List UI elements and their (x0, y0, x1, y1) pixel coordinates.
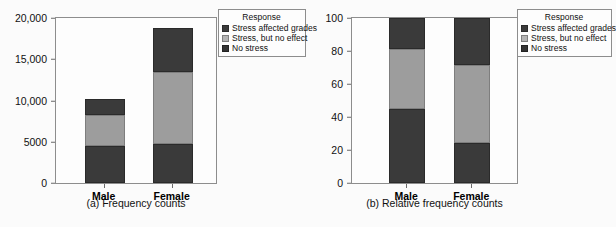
y-tick-label: 100 (308, 13, 351, 24)
bar-segment-stress-affected-grades (85, 99, 125, 116)
legend-swatch-icon (222, 45, 229, 52)
figure-canvas: (a) Frequency counts 0500010,00015,00020… (0, 0, 616, 227)
legend-swatch-icon (222, 35, 229, 42)
bar-segment-stress-but-no-effect (454, 65, 490, 143)
bar-male (389, 18, 425, 183)
legend-title: Response (521, 12, 607, 22)
bar-male (85, 99, 125, 183)
y-tick-label: 20,000 (0, 13, 55, 24)
plot-area-panel-a (55, 17, 217, 184)
legend-swatch-icon (521, 25, 528, 32)
legend-item: No stress (521, 43, 607, 53)
legend-item: Stress, but no effect (521, 33, 607, 43)
bar-female (454, 18, 490, 183)
x-axis-label-female: Female (154, 190, 190, 202)
legend-panel-a: ResponseStress affected gradesStress, bu… (218, 9, 306, 57)
y-tick-label: 40 (308, 112, 351, 123)
plot-area-panel-b (351, 17, 518, 184)
y-tick-label: 10,000 (0, 95, 55, 106)
legend-item-label: No stress (232, 43, 268, 53)
legend-item: Stress affected grades (222, 23, 301, 33)
legend-item-label: Stress, but no effect (232, 33, 307, 43)
x-tick (471, 184, 472, 188)
y-tick-label: 0 (308, 178, 351, 189)
legend-swatch-icon (521, 35, 528, 42)
legend-item-label: Stress affected grades (232, 23, 317, 33)
bar-segment-no-stress (389, 109, 425, 183)
x-tick (104, 184, 105, 188)
y-tick-label: 20 (308, 145, 351, 156)
bar-segment-no-stress (153, 144, 193, 183)
legend-item-label: Stress, but no effect (531, 33, 606, 43)
bar-segment-no-stress (85, 146, 125, 183)
bar-segment-stress-but-no-effect (153, 72, 193, 144)
x-axis-label-male: Male (394, 190, 417, 202)
x-tick (406, 184, 407, 188)
bar-segment-no-stress (454, 143, 490, 183)
y-axis-panel-a (0, 0, 55, 227)
bar-segment-stress-affected-grades (454, 18, 490, 65)
legend-title: Response (222, 12, 301, 22)
bar-segment-stress-affected-grades (153, 28, 193, 73)
y-tick-label: 15,000 (0, 54, 55, 65)
legend-item: Stress, but no effect (222, 33, 301, 43)
legend-swatch-icon (222, 25, 229, 32)
legend-swatch-icon (521, 45, 528, 52)
x-axis-label-female: Female (453, 190, 489, 202)
y-tick-label: 60 (308, 79, 351, 90)
y-tick-label: 0 (0, 178, 55, 189)
bar-segment-stress-affected-grades (389, 18, 425, 49)
bar-female (153, 28, 193, 183)
legend-panel-b: ResponseStress affected gradesStress, bu… (517, 9, 612, 57)
legend-item-label: No stress (531, 43, 567, 53)
legend-item: No stress (222, 43, 301, 53)
bar-segment-stress-but-no-effect (85, 115, 125, 146)
x-tick (172, 184, 173, 188)
legend-item-label: Stress affected grades (531, 23, 616, 33)
legend-item: Stress affected grades (521, 23, 607, 33)
y-tick-label: 5000 (0, 137, 55, 148)
bar-segment-stress-but-no-effect (389, 49, 425, 108)
x-axis-label-male: Male (92, 190, 115, 202)
y-tick-label: 80 (308, 46, 351, 57)
